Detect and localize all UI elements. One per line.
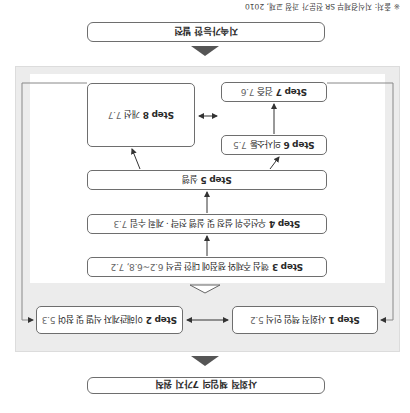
- step-2-number: Step 2: [146, 315, 177, 325]
- step-6-box: Step 6 의사소통 7.5: [221, 135, 327, 155]
- sustainable-development-box: 지속가능한 발전: [87, 22, 325, 42]
- iso26000-process-diagram: 사회적 책임의 7가지 원칙 Step 1 사회적 책임 인식 5.2 Step…: [0, 0, 410, 413]
- step-3-box: Step 3 핵심 주제와 쟁점에 대한 분석 6.2~6.8, 7.2: [87, 257, 327, 277]
- step-2-box: Step 2 이해관계자 식별 및 참여 5.3: [36, 306, 183, 334]
- step-1-ref: 5.2: [250, 315, 263, 325]
- step-4-label: 우선순위 설정 및 실행 전략 · 계획 수립: [130, 218, 266, 231]
- step-2-label: 이해관계자 식별 및 참여: [58, 314, 143, 327]
- step-7-label: 검증: [258, 86, 273, 99]
- step-5-number: Step 5: [201, 175, 232, 185]
- step-7-number: Step 7: [276, 87, 307, 97]
- step-5-label: 실행: [182, 174, 197, 187]
- step-6-ref: 7.5: [233, 140, 246, 150]
- step-6-number: Step 6: [284, 140, 315, 150]
- step-7-box: Step 7 검증 7.6: [221, 82, 327, 102]
- step-4-box: Step 4 우선순위 설정 및 실행 전략 · 계획 수립 7.3: [87, 214, 327, 234]
- step-1-box: Step 1 사회적 책임 인식 5.2: [232, 306, 378, 334]
- step-1-number: Step 1: [329, 315, 360, 325]
- step-8-box: Step 8 개선 7.7: [87, 83, 195, 147]
- step-2-ref: 5.3: [42, 315, 55, 325]
- step-3-ref: 6.2~6.8, 7.2: [111, 262, 164, 272]
- step-8-ref: 7.7: [108, 110, 121, 120]
- principles-box: 사회적 책임의 7가지 원칙: [87, 377, 325, 394]
- step-5-box: Step 5 실행: [87, 170, 327, 190]
- step-8-number: Step 8: [143, 110, 174, 120]
- principles-label: 사회적 책임의 7가지 원칙: [155, 379, 257, 393]
- step-6-label: 의사소통: [250, 139, 281, 152]
- sustainable-development-label: 지속가능한 발전: [174, 25, 238, 39]
- step-4-number: Step 4: [269, 219, 300, 229]
- flow-triangle-bottom-icon: [191, 46, 219, 56]
- flow-triangle-top-icon: [191, 356, 219, 366]
- step-3-label: 핵심 주제와 쟁점에 대한 분석: [167, 261, 270, 274]
- source-note: ※ 출처: 지식경제부 SR 전문가 과정 교재, 2010: [245, 2, 400, 13]
- step-1-label: 사회적 책임 인식: [267, 314, 326, 327]
- step-3-number: Step 3: [272, 262, 303, 272]
- step-8-label: 개선: [125, 109, 140, 122]
- step-7-ref: 7.6: [241, 87, 254, 97]
- step-4-ref: 7.3: [114, 219, 127, 229]
